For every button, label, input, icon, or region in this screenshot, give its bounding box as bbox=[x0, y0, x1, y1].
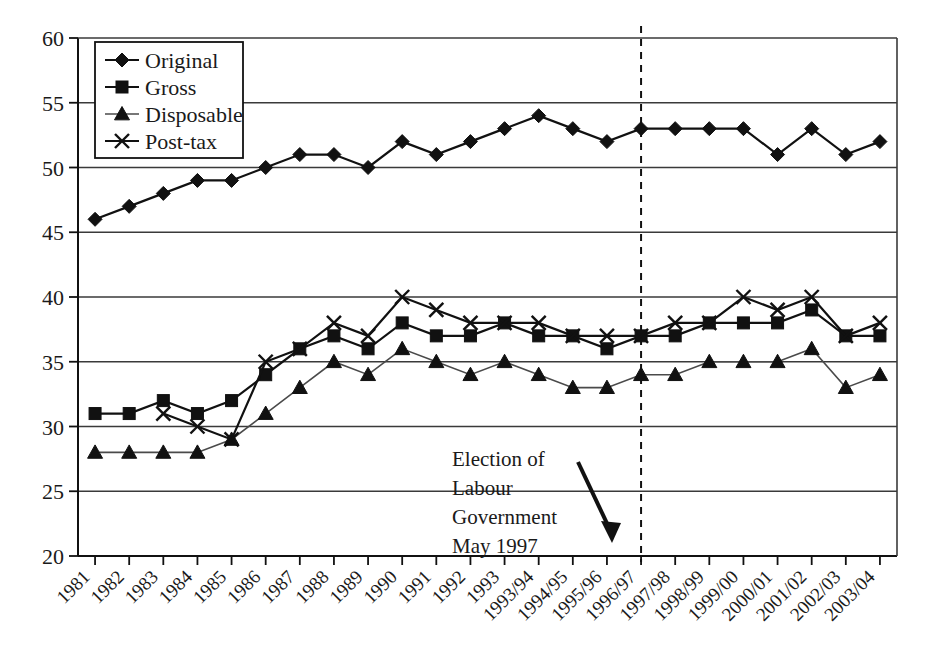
y-axis-ticks bbox=[69, 38, 78, 556]
series-line bbox=[95, 349, 880, 453]
data-point-square bbox=[89, 408, 101, 420]
legend-label: Disposable bbox=[145, 102, 243, 127]
data-point-diamond bbox=[566, 122, 580, 136]
data-point-diamond bbox=[463, 135, 477, 149]
data-point-square bbox=[464, 330, 476, 342]
data-point-square bbox=[123, 408, 135, 420]
data-point-diamond bbox=[190, 173, 204, 187]
annotation-arrow-head bbox=[601, 521, 621, 543]
data-point-triangle bbox=[770, 354, 785, 367]
data-point-diamond bbox=[225, 173, 239, 187]
data-point-triangle bbox=[88, 445, 103, 458]
data-point-diamond bbox=[122, 199, 136, 213]
legend-label: Original bbox=[145, 48, 218, 73]
annotation-line: Labour bbox=[452, 476, 513, 500]
data-point-diamond bbox=[498, 122, 512, 136]
data-point-triangle bbox=[429, 354, 444, 367]
data-point-triangle bbox=[292, 380, 307, 393]
x-tick-label: 1983 bbox=[120, 566, 162, 608]
data-point-diamond bbox=[873, 135, 887, 149]
x-tick-label: 1986 bbox=[223, 566, 265, 608]
y-axis-labels: 202530354045505560 bbox=[42, 26, 64, 569]
y-tick-label: 20 bbox=[42, 544, 64, 569]
data-point-square bbox=[430, 330, 442, 342]
y-tick-label: 50 bbox=[42, 156, 64, 181]
data-point-triangle bbox=[702, 354, 717, 367]
data-point-diamond bbox=[634, 122, 648, 136]
x-tick-label: 1985 bbox=[189, 566, 231, 608]
data-point-square bbox=[157, 395, 169, 407]
data-point-triangle bbox=[565, 380, 580, 393]
chart-page: 202530354045505560 198119821983198419851… bbox=[0, 0, 926, 669]
data-point-square bbox=[669, 330, 681, 342]
x-tick-label: 1981 bbox=[52, 566, 94, 608]
data-point-triangle bbox=[531, 367, 546, 380]
data-point-square bbox=[226, 395, 238, 407]
data-point-diamond bbox=[156, 186, 170, 200]
data-point-square bbox=[533, 330, 545, 342]
y-tick-label: 35 bbox=[42, 350, 64, 375]
legend: OriginalGrossDisposablePost-tax bbox=[95, 42, 243, 158]
data-point-square bbox=[737, 317, 749, 329]
x-tick-label: 1988 bbox=[291, 566, 333, 608]
data-point-diamond bbox=[668, 122, 682, 136]
data-point-square bbox=[806, 304, 818, 316]
data-point-diamond bbox=[259, 161, 273, 175]
x-tick-label: 1990 bbox=[359, 566, 401, 608]
grid-lines bbox=[78, 103, 897, 492]
legend-label: Gross bbox=[145, 75, 196, 100]
y-tick-label: 45 bbox=[42, 220, 64, 245]
data-point-triangle bbox=[395, 341, 410, 354]
data-point-diamond bbox=[429, 148, 443, 162]
x-tick-label: 1987 bbox=[257, 566, 299, 608]
data-point-diamond bbox=[88, 212, 102, 226]
data-point-diamond bbox=[327, 148, 341, 162]
y-tick-label: 55 bbox=[42, 91, 64, 116]
data-point-triangle bbox=[804, 341, 819, 354]
data-point-square bbox=[116, 81, 128, 93]
data-point-square bbox=[362, 343, 374, 355]
data-point-square bbox=[191, 408, 203, 420]
data-point-triangle bbox=[258, 406, 273, 419]
data-point-triangle bbox=[599, 380, 614, 393]
x-tick-label: 1989 bbox=[325, 566, 367, 608]
data-point-triangle bbox=[872, 367, 887, 380]
x-tick-label: 1992 bbox=[428, 566, 470, 608]
annotation-line: May 1997 bbox=[452, 534, 538, 558]
data-point-triangle bbox=[736, 354, 751, 367]
data-point-triangle bbox=[326, 354, 341, 367]
series-disposable bbox=[88, 341, 888, 458]
data-point-square bbox=[396, 317, 408, 329]
data-point-triangle bbox=[122, 445, 137, 458]
x-tick-label: 1991 bbox=[393, 566, 435, 608]
y-tick-label: 30 bbox=[42, 415, 64, 440]
data-point-triangle bbox=[497, 354, 512, 367]
data-point-triangle bbox=[156, 445, 171, 458]
data-point-triangle bbox=[668, 367, 683, 380]
annotation-line: Government bbox=[452, 505, 557, 529]
data-point-diamond bbox=[702, 122, 716, 136]
y-tick-label: 25 bbox=[42, 479, 64, 504]
data-point-square bbox=[874, 330, 886, 342]
x-tick-label: 1984 bbox=[155, 566, 197, 608]
data-point-triangle bbox=[463, 367, 478, 380]
x-tick-label: 1982 bbox=[86, 566, 128, 608]
data-point-square bbox=[601, 343, 613, 355]
y-tick-label: 40 bbox=[42, 285, 64, 310]
data-point-triangle bbox=[634, 367, 649, 380]
data-point-diamond bbox=[532, 109, 546, 123]
y-tick-label: 60 bbox=[42, 26, 64, 51]
data-point-diamond bbox=[600, 135, 614, 149]
annotation-group: Election ofLabourGovernmentMay 1997 bbox=[452, 447, 621, 558]
annotation-line: Election of bbox=[452, 447, 545, 471]
data-point-diamond bbox=[293, 148, 307, 162]
data-point-square bbox=[328, 330, 340, 342]
legend-label: Post-tax bbox=[145, 129, 217, 154]
x-axis-labels: 1981198219831984198519861987198819891990… bbox=[52, 566, 879, 625]
data-point-triangle bbox=[361, 367, 376, 380]
data-point-square bbox=[772, 317, 784, 329]
data-point-triangle bbox=[190, 445, 205, 458]
line-chart: 202530354045505560 198119821983198419851… bbox=[0, 0, 926, 669]
series-group bbox=[88, 109, 888, 459]
